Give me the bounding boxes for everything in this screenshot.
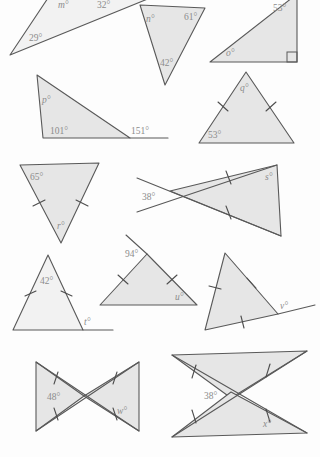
figure-f-label-r: r° [57, 221, 65, 231]
figure-j-label-v: v° [280, 301, 288, 311]
figure-d-label-101: 101° [50, 126, 68, 136]
figure-g-label-38: 38° [142, 192, 156, 202]
figure-a-label-m: m° [58, 0, 69, 10]
figure-l-triangle-upper [172, 351, 307, 398]
figure-b-label-n: n° [146, 14, 155, 24]
figure-b-label-61: 61° [184, 12, 198, 22]
figure-k-triangle-right [84, 362, 139, 431]
figure-k-label-48: 48° [47, 392, 61, 402]
figure-c: 53° o° [210, 0, 297, 62]
figure-a-label-32: 32° [97, 0, 111, 10]
figure-e-label-53: 53° [208, 130, 222, 140]
figure-d-label-151: 151° [131, 126, 149, 136]
figure-f-label-65: 65° [30, 172, 44, 182]
figure-i-label-94: 94° [125, 249, 139, 259]
figure-h: 42° t° [13, 255, 113, 330]
figure-h-label-t: t° [84, 317, 91, 327]
figure-j: v° [205, 253, 315, 330]
figure-b-label-42: 42° [160, 58, 174, 68]
figure-l-label-38: 38° [204, 391, 218, 401]
figure-g: 38° s° [137, 165, 281, 236]
figure-a-triangle [10, 0, 155, 55]
figure-h-triangle [13, 255, 83, 330]
figure-l: 38° x° [172, 351, 307, 437]
figure-g-label-s: s° [265, 172, 273, 182]
figure-i-label-u: u° [175, 292, 184, 302]
worksheet-page: m° 32° 29° n° 61° 42° 53° o° p° 101° 151… [0, 0, 320, 457]
figure-k: 48° w° [36, 362, 139, 431]
figure-e: q° 53° [199, 72, 294, 143]
figure-h-label-42: 42° [40, 276, 54, 286]
worksheet-canvas: m° 32° 29° n° 61° 42° 53° o° p° 101° 151… [0, 0, 320, 457]
figure-i: 94° u° [100, 235, 197, 305]
figure-d-label-p: p° [41, 95, 51, 105]
figure-c-label-o: o° [226, 48, 235, 58]
figure-c-label-53: 53° [273, 3, 287, 13]
figure-a-label-29: 29° [29, 33, 43, 43]
figure-l-label-x: x° [262, 419, 271, 429]
figure-l-triangle-lower [172, 392, 307, 437]
figure-a: m° 32° 29° [10, 0, 155, 55]
figure-e-label-q: q° [240, 83, 249, 93]
figure-b: n° 61° 42° [140, 5, 205, 85]
figure-f: 65° r° [20, 163, 99, 243]
figure-k-label-w: w° [117, 406, 127, 416]
figure-d: p° 101° 151° [37, 75, 168, 138]
